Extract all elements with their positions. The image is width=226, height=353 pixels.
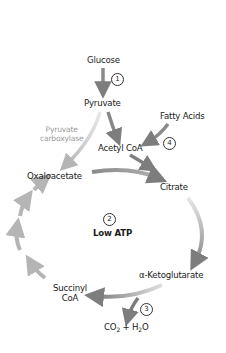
node-pyruvate: Pyruvate (84, 98, 121, 108)
arrow-succinylcoa-oxaloacetate (16, 180, 45, 278)
o-text: O (142, 322, 149, 332)
node-citrate: Citrate (160, 182, 188, 192)
enzyme-pyruvate-carboxylase: Pyruvate carboxylase (40, 125, 83, 143)
succinyl-coa-line2: CoA (50, 293, 90, 303)
node-succinyl-coa: Succinyl CoA (50, 283, 90, 303)
succinyl-coa-line1: Succinyl (50, 283, 90, 293)
node-acetyl-coa: Acetyl CoA (98, 143, 142, 153)
arrow-pyruvate-acetylcoa (108, 112, 117, 138)
arrow-citrate-ketoglutarate (188, 198, 202, 262)
center-label-low-atp: Low ATP (93, 228, 132, 238)
step-number-4: 4 (163, 137, 176, 150)
node-fatty-acids: Fatty Acids (160, 111, 205, 121)
arrow-ketoglutarate-succinylcoa (94, 285, 162, 297)
node-alpha-ketoglutarate: α-Ketoglutarate (139, 270, 203, 280)
step-number-3: 3 (140, 303, 153, 316)
arrow-oxaloacetate-citrate (92, 170, 158, 178)
arrow-acetylcoa-citrate (130, 155, 150, 167)
node-glucose: Glucose (87, 55, 120, 65)
node-co2-h2o: CO2 + H2O (104, 322, 149, 333)
enzyme-label-line2: carboxylase (40, 134, 83, 143)
step-number-2: 2 (103, 213, 116, 226)
arrow-ketoglutarate-co2 (128, 298, 138, 318)
step-number-1: 1 (111, 73, 124, 86)
co2-text: CO (104, 322, 116, 332)
plus-h-text: + H (120, 322, 138, 332)
node-oxaloacetate: Oxaloacetate (27, 171, 82, 181)
enzyme-label-line1: Pyruvate (40, 125, 83, 134)
